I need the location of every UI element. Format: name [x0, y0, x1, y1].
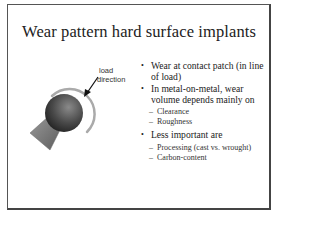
bullet-item: Wear at contact patch (in line of load)	[141, 61, 273, 82]
bullet-item: In metal-on-metal, wear volume depends m…	[141, 84, 273, 105]
bullet-list: Wear at contact patch (in line of load) …	[141, 61, 273, 163]
sub-bullet-text: Carbon-content	[157, 153, 207, 162]
sub-bullet-item: –Processing (cast vs. wrought)	[141, 143, 273, 153]
sub-bullet-item: –Roughness	[141, 117, 273, 127]
sub-bullet-text: Roughness	[157, 117, 192, 126]
sub-bullet-item: –Clearance	[141, 107, 273, 117]
label-line-1: load	[97, 66, 137, 75]
femoral-head-icon	[45, 94, 83, 132]
bullet-item: Less important are	[141, 130, 273, 141]
load-direction-arrow-icon	[84, 77, 98, 97]
load-direction-label: load direction	[97, 66, 137, 84]
sub-bullet-text: Processing (cast vs. wrought)	[157, 143, 251, 152]
label-line-2: direction	[97, 75, 137, 84]
sub-bullet-text: Clearance	[157, 107, 189, 116]
sub-bullet-item: –Carbon-content	[141, 153, 273, 163]
